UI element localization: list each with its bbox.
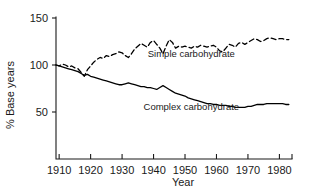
x-axis-title: Year bbox=[172, 176, 195, 188]
axis-spine bbox=[56, 17, 292, 159]
x-tick-label: 1970 bbox=[236, 164, 260, 176]
y-axis-tick-labels: 50100150 bbox=[30, 12, 48, 118]
x-tick-label: 1930 bbox=[110, 164, 134, 176]
chart-axes bbox=[56, 17, 292, 159]
x-axis-tick-labels: 19101920193019401950196019701980 bbox=[47, 164, 292, 176]
series-label-simple-carbohydrate: Simple carbohydrate bbox=[148, 48, 235, 59]
y-tick-label: 100 bbox=[30, 59, 48, 71]
x-tick-label: 1920 bbox=[78, 164, 102, 176]
x-tick-label: 1940 bbox=[141, 164, 165, 176]
x-tick-label: 1960 bbox=[204, 164, 228, 176]
line-chart: 50100150 1910192019301940195019601970198… bbox=[0, 0, 312, 193]
x-tick-label: 1910 bbox=[47, 164, 71, 176]
y-axis-title: % Base years bbox=[4, 61, 16, 129]
y-tick-label: 50 bbox=[36, 106, 48, 118]
y-tick-label: 150 bbox=[30, 12, 48, 24]
series-label-complex-carbohydrate: Complex carbohydrate bbox=[144, 101, 240, 112]
chart-container: 50100150 1910192019301940195019601970198… bbox=[0, 0, 312, 193]
series-annotation-labels: Simple carbohydrateComplex carbohydrate bbox=[144, 48, 240, 112]
x-tick-label: 1950 bbox=[173, 164, 197, 176]
x-tick-label: 1980 bbox=[267, 164, 291, 176]
